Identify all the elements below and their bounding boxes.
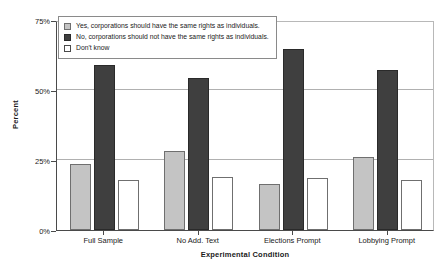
bar (377, 70, 398, 230)
legend-item[interactable]: Yes, corporations should have the same r… (64, 21, 269, 32)
bar (212, 177, 233, 230)
x-tick-mark-2 (292, 231, 293, 235)
bar (188, 78, 209, 230)
bar (94, 65, 115, 230)
bar (164, 151, 185, 230)
y-tick-label-50: 50% (14, 87, 50, 96)
y-tick-label-75: 75% (14, 17, 50, 26)
legend-item[interactable]: No, corporations should not have the sam… (64, 32, 269, 43)
legend-swatch-icon (64, 45, 71, 52)
bar (401, 180, 422, 230)
y-tick-mark-0 (51, 231, 56, 232)
bar (259, 184, 280, 230)
bar (283, 49, 304, 230)
legend-swatch-icon (64, 23, 71, 30)
x-tick-label-0: Full Sample (83, 236, 123, 245)
legend-item[interactable]: Don't know (64, 43, 269, 54)
x-tick-label-3: Lobbying Prompt (358, 236, 415, 245)
x-axis-label: Experimental Condition (56, 250, 434, 259)
legend-swatch-icon (64, 34, 71, 41)
y-tick-label-0: 0% (14, 227, 50, 236)
bar (307, 178, 328, 230)
bar (353, 157, 374, 230)
y-tick-label-25: 25% (14, 157, 50, 166)
y-axis-label-text: Percent (11, 100, 20, 129)
x-tick-mark-0 (103, 231, 104, 235)
legend-label: Yes, corporations should have the same r… (76, 23, 260, 30)
y-axis-label: Percent (8, 0, 22, 228)
bar-chart: Percent 0%25%50%75% Full SampleNo Add. T… (0, 0, 445, 275)
x-tick-label-2: Elections Prompt (264, 236, 321, 245)
legend-label: Don't know (76, 45, 109, 52)
legend: Yes, corporations should have the same r… (58, 16, 277, 59)
x-tick-mark-3 (387, 231, 388, 235)
legend-label: No, corporations should not have the sam… (76, 34, 269, 41)
bar (118, 180, 139, 230)
bar (70, 164, 91, 230)
x-tick-label-1: No Add. Text (177, 236, 219, 245)
x-tick-mark-1 (198, 231, 199, 235)
